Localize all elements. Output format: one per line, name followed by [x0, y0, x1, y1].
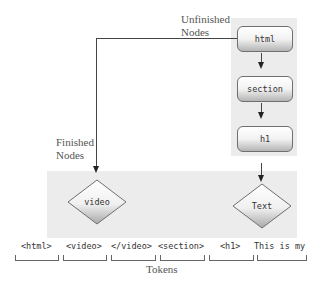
arrow-down-icon: [93, 166, 99, 173]
node-label: Text: [252, 201, 272, 211]
token-bracket: [111, 255, 156, 261]
arrow-down-icon: [258, 112, 264, 119]
token-h1: <h1>: [220, 241, 240, 251]
unfinished-nodes-label: Unfinished Nodes: [181, 13, 230, 39]
connector-horizontal: [96, 38, 237, 39]
finished-label-line2: Nodes: [56, 149, 94, 162]
node-label: h1: [260, 134, 270, 144]
tokens-label: Tokens: [146, 263, 178, 276]
token-html: <html>: [21, 241, 52, 251]
connector-vertical: [96, 38, 97, 167]
token-bracket: [257, 255, 307, 261]
node-label: section: [247, 84, 283, 94]
arrow-down-icon: [258, 175, 264, 182]
token-video-open: <video>: [66, 241, 102, 251]
node-label: video: [84, 197, 110, 207]
token-bracket: [63, 255, 107, 261]
token-bracket: [160, 255, 205, 261]
token-text: This is my: [254, 241, 305, 251]
stack-node-h1: h1: [237, 126, 293, 152]
finished-label-line1: Finished: [56, 136, 94, 149]
unfinished-label-line1: Unfinished: [181, 13, 230, 26]
finished-nodes-label: Finished Nodes: [56, 136, 94, 162]
stack-node-section: section: [237, 76, 293, 102]
stack-node-html: html: [237, 26, 293, 52]
token-bracket: [209, 255, 254, 261]
token-section: <section>: [158, 241, 204, 251]
arrow-down-icon: [258, 62, 264, 69]
token-video-close: </video>: [111, 241, 152, 251]
token-bracket: [15, 255, 59, 261]
finished-node-video: video: [67, 179, 127, 225]
finished-node-text: Text: [232, 183, 292, 229]
node-label: html: [255, 34, 275, 44]
